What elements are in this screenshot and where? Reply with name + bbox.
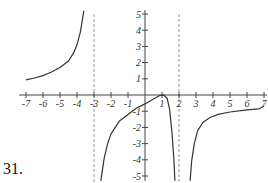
y-tick-label: -5 bbox=[133, 171, 141, 182]
x-tick-label: -5 bbox=[56, 98, 64, 109]
y-tick-label: -2 bbox=[133, 122, 141, 133]
curve-right-branch bbox=[190, 106, 264, 181]
y-tick-label: -3 bbox=[133, 138, 141, 149]
x-tick-label: -6 bbox=[39, 98, 47, 109]
graph: -7-6-5-4-3-2-1123456754321-1-2-3-4-5 bbox=[0, 0, 268, 183]
x-tick-label: -3 bbox=[90, 98, 98, 109]
x-tick-label: 4 bbox=[211, 98, 216, 109]
problem-number: 31. bbox=[3, 160, 23, 178]
x-tick-label: 5 bbox=[228, 98, 233, 109]
y-tick-label: 2 bbox=[136, 57, 141, 68]
y-tick-label: -4 bbox=[133, 154, 141, 165]
x-tick-label: -1 bbox=[124, 98, 132, 109]
y-tick-label: 5 bbox=[136, 9, 141, 20]
x-tick-label: -2 bbox=[107, 98, 115, 109]
x-tick-label: -4 bbox=[73, 98, 81, 109]
x-tick-label: 6 bbox=[245, 98, 250, 109]
x-tick-label: 2 bbox=[177, 98, 182, 109]
x-tick-label: 3 bbox=[193, 98, 199, 109]
y-tick-label: 1 bbox=[136, 73, 141, 84]
x-tick-label: 1 bbox=[160, 98, 165, 109]
y-tick-label: 3 bbox=[135, 41, 141, 52]
y-tick-label: 4 bbox=[136, 25, 141, 36]
curve-left-branch bbox=[26, 11, 84, 80]
x-tick-label: -7 bbox=[22, 98, 31, 109]
